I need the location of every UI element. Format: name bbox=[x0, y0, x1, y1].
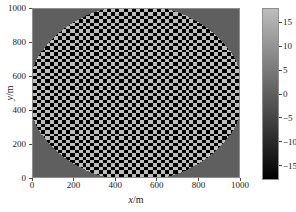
colorbar-gradient bbox=[263, 9, 278, 179]
y-tick-mark bbox=[29, 178, 32, 179]
colorbar-tick-mark bbox=[279, 165, 282, 166]
x-tick-label: 1000 bbox=[231, 180, 249, 190]
figure-canvas: 02004006008001000 02004006008001000 x/m … bbox=[0, 0, 296, 212]
x-axis-label: x/m bbox=[128, 194, 143, 205]
y-tick-label: 1000 bbox=[0, 3, 26, 13]
x-axis-label-unit: /m bbox=[133, 194, 144, 205]
y-tick-mark bbox=[29, 110, 32, 111]
colorbar-tick-mark bbox=[279, 117, 282, 118]
x-tick-label: 0 bbox=[30, 180, 35, 190]
colorbar-tick-label: −10 bbox=[283, 137, 296, 147]
colorbar-tick-label: 0 bbox=[283, 89, 288, 99]
colorbar bbox=[262, 8, 279, 180]
y-tick-label: 600 bbox=[0, 71, 26, 81]
x-tick-label: 600 bbox=[150, 180, 164, 190]
colorbar-tick-label: 15 bbox=[283, 17, 292, 27]
colorbar-tick-label: −15 bbox=[283, 161, 296, 171]
colorbar-tick-mark bbox=[279, 22, 282, 23]
y-tick-label: 400 bbox=[0, 105, 26, 115]
colorbar-tick-label: 5 bbox=[283, 65, 288, 75]
y-axis-label: y/m bbox=[4, 85, 15, 100]
x-tick-label: 800 bbox=[192, 180, 206, 190]
y-tick-mark bbox=[29, 42, 32, 43]
y-tick-mark bbox=[29, 144, 32, 145]
colorbar-tick-mark bbox=[279, 46, 282, 47]
colorbar-tick-label: −5 bbox=[283, 113, 293, 123]
colorbar-tick-mark bbox=[279, 70, 282, 71]
y-tick-mark bbox=[29, 76, 32, 77]
colorbar-tick-label: 10 bbox=[283, 41, 292, 51]
colorbar-tick-mark bbox=[279, 94, 282, 95]
y-tick-label: 200 bbox=[0, 139, 26, 149]
y-tick-mark bbox=[29, 8, 32, 9]
heatmap-axes bbox=[32, 8, 240, 178]
colorbar-tick-mark bbox=[279, 141, 282, 142]
x-tick-label: 400 bbox=[108, 180, 122, 190]
y-tick-label: 0 bbox=[0, 173, 26, 183]
y-axis-label-var: y bbox=[4, 96, 15, 100]
heatmap-image bbox=[33, 9, 239, 177]
y-tick-label: 800 bbox=[0, 37, 26, 47]
y-axis-label-unit: /m bbox=[4, 85, 15, 96]
x-tick-label: 200 bbox=[67, 180, 81, 190]
